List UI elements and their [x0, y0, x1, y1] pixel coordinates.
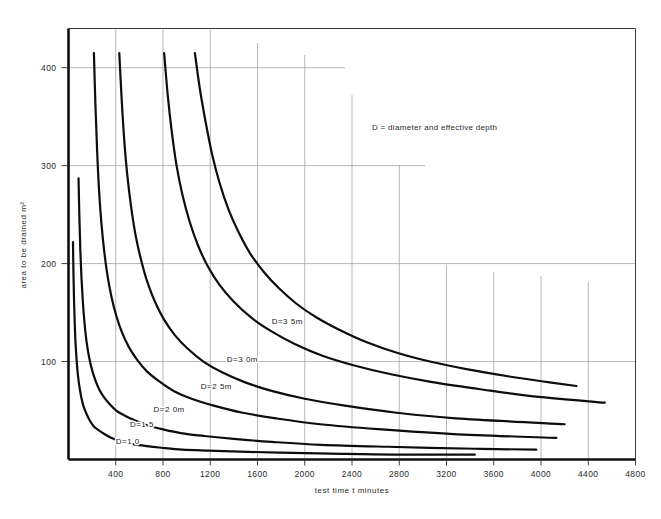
curve-label: D=3 0m — [227, 355, 258, 364]
curve-label: D=2 0m — [154, 405, 185, 414]
curve-label: D=1 0 — [116, 437, 140, 446]
chart-annotation-text: D = diameter and effective depth — [372, 123, 497, 132]
curve-label: D=2 5m — [201, 382, 232, 391]
chart-figure: 4008001200160020002400280032003600400044… — [0, 0, 661, 519]
x-tick-label: 2800 — [389, 469, 410, 479]
x-tick-label: 1200 — [200, 469, 221, 479]
chart-background — [0, 0, 661, 519]
x-tick-label: 800 — [155, 469, 170, 479]
x-tick-label: 1600 — [247, 469, 268, 479]
curve-label: D=1 5 — [130, 420, 154, 429]
y-tick-label: 100 — [41, 357, 56, 367]
y-axis-title: area to be drained m² — [19, 202, 28, 289]
x-axis-title: test time t minutes — [315, 486, 389, 495]
x-tick-label: 2000 — [294, 469, 315, 479]
x-tick-label: 4000 — [531, 469, 552, 479]
y-tick-label: 300 — [41, 161, 56, 171]
drainage-area-vs-test-time-chart: 4008001200160020002400280032003600400044… — [0, 0, 661, 519]
x-tick-label: 2400 — [342, 469, 363, 479]
y-tick-label: 400 — [41, 63, 56, 73]
x-tick-label: 4400 — [578, 469, 599, 479]
x-tick-label: 4800 — [625, 469, 646, 479]
x-tick-label: 3600 — [483, 469, 504, 479]
curve-label: D=3 5m — [272, 317, 303, 326]
y-tick-label: 200 — [41, 259, 56, 269]
x-tick-label: 400 — [108, 469, 123, 479]
x-tick-label: 3200 — [436, 469, 457, 479]
